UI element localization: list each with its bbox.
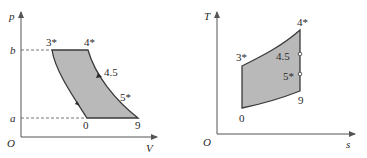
ts-y-axis-label: T <box>204 10 211 22</box>
ts-point-3-label: 3* <box>236 51 247 63</box>
pv-y-axis-label: p <box>8 10 15 22</box>
pv-b-label: b <box>10 44 16 56</box>
ts-x-axis-label: s <box>346 138 350 150</box>
pv-point-5-label: 5* <box>120 91 131 103</box>
pv-origin-label: O <box>7 137 15 149</box>
ts-point-4-5-marker <box>298 52 302 56</box>
pv-point-4-label: 4* <box>84 36 95 48</box>
ts-point-5-marker <box>298 72 302 76</box>
pv-point-0-label: 0 <box>83 119 89 131</box>
diagram-canvas: p V O b a 3* 4* 4.5 5* 9 0 T s O 3* 4* 4… <box>0 0 367 158</box>
ts-point-4-label: 4* <box>297 16 308 28</box>
ts-diagram: T s O 3* 4* 4.5 5* 9 0 <box>203 10 355 150</box>
pv-diagram: p V O b a 3* 4* 4.5 5* 9 0 <box>7 10 157 154</box>
pv-x-axis-label: V <box>146 142 154 154</box>
ts-point-9-label: 9 <box>298 94 304 106</box>
ts-point-5-label: 5* <box>283 70 294 82</box>
pv-point-4-5-label: 4.5 <box>104 66 118 78</box>
pv-point-9-label: 9 <box>135 119 141 131</box>
ts-origin-label: O <box>203 136 211 148</box>
pv-point-3-label: 3* <box>46 36 57 48</box>
ts-point-4-5-label: 4.5 <box>276 50 290 62</box>
ts-point-0-label: 0 <box>239 112 245 124</box>
pv-a-label: a <box>10 112 16 124</box>
pv-cycle-area <box>52 50 138 118</box>
ts-cycle-area <box>242 30 300 108</box>
